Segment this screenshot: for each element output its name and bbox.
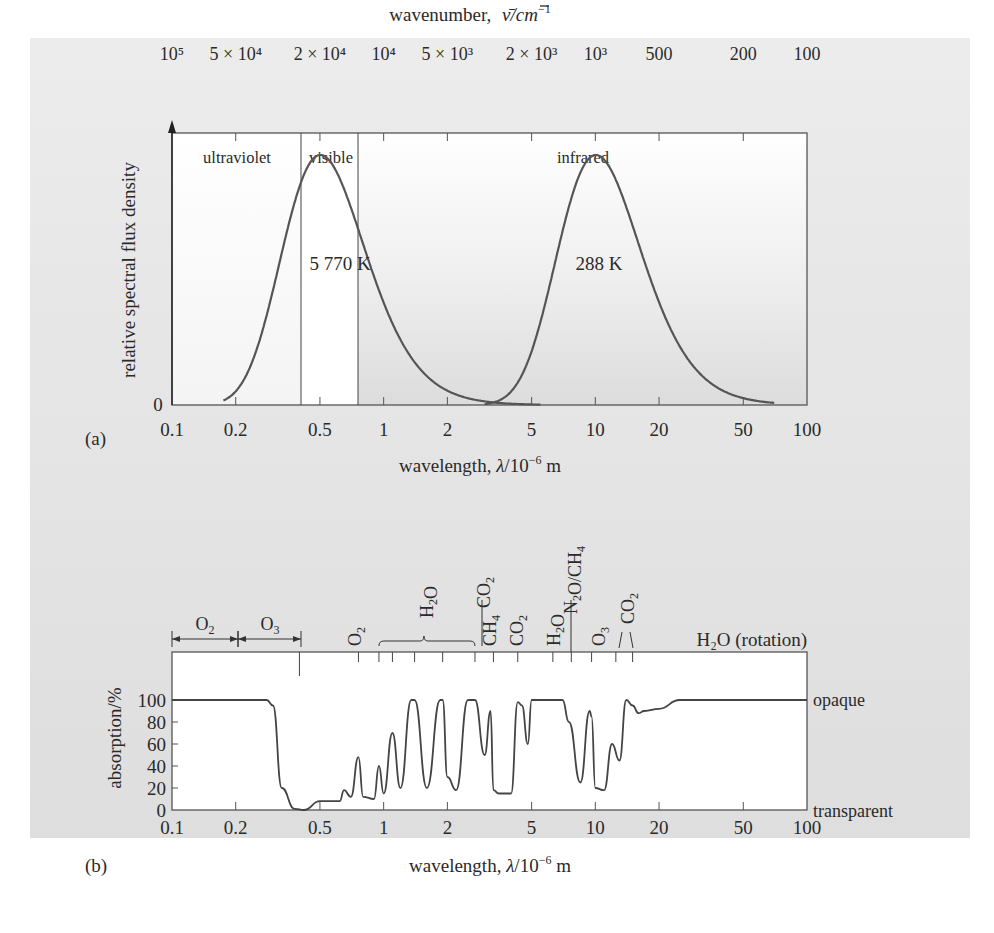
absorber-label-ch4: CH4 xyxy=(480,615,503,646)
top-tick-label: 2 × 10⁴ xyxy=(294,44,346,64)
y-axis-tick-labels-b: 020406080100 xyxy=(138,690,167,821)
y-tick-label: 40 xyxy=(147,756,166,777)
absorber-label-co2-b: CO2 xyxy=(507,615,530,646)
panel-a: wavenumber, ν̄/cm−1 10⁵5 × 10⁴2 × 10⁴10⁴… xyxy=(85,2,821,476)
panel-b: O2O3O2H2OCO2CH4CO2H2ON2O/CH4O3CO2H₂O (ro… xyxy=(85,546,893,877)
absorber-label-co2-c: CO2 xyxy=(618,593,641,624)
x-tick-label: 100 xyxy=(793,817,822,838)
absorber-label-h2o: H2O xyxy=(417,586,441,618)
top-axis-tick-labels: 10⁵5 × 10⁴2 × 10⁴10⁴5 × 10³2 × 10³10³500… xyxy=(160,44,821,64)
x-tick-label: 0.2 xyxy=(224,419,248,440)
y-tick-label: 80 xyxy=(147,712,166,733)
y-axis-arrow-icon xyxy=(168,120,176,133)
absorber-label-o3: O3 xyxy=(589,627,612,646)
y-tick-label: 20 xyxy=(147,778,166,799)
co2-bracket-left xyxy=(619,632,622,648)
arrow-right-icon xyxy=(230,636,238,642)
x-tick-label: 0.5 xyxy=(308,419,332,440)
x-tick-label: 50 xyxy=(734,419,753,440)
top-tick-label: 10⁴ xyxy=(372,44,396,64)
top-tick-label: 100 xyxy=(794,44,821,64)
panel-b-label: (b) xyxy=(85,855,107,877)
x-tick-label: 0.5 xyxy=(308,817,332,838)
x-tick-label: 0.2 xyxy=(224,817,248,838)
x-axis-label-b: wavelength, λ/10−6 m xyxy=(409,853,571,876)
y-axis-label-b: absorption/% xyxy=(104,687,125,788)
y-tick-label: 60 xyxy=(147,734,166,755)
x-tick-label: 0.1 xyxy=(160,419,184,440)
top-tick-label: 5 × 10³ xyxy=(422,44,474,64)
top-tick-label: 10⁵ xyxy=(160,44,184,64)
y-axis-label-a: relative spectral flux density xyxy=(118,162,139,378)
x-axis-tick-labels-a: 0.10.20.5125102050100 xyxy=(160,419,821,440)
x-tick-label: 100 xyxy=(793,419,822,440)
x-axis-label-a: wavelength, λ/10−6 m xyxy=(399,453,561,476)
spectrum-figure: wavenumber, ν̄/cm−1 10⁵5 × 10⁴2 × 10⁴10⁴… xyxy=(0,0,994,933)
absorber-label-o2: O2 xyxy=(345,627,368,646)
earth-temperature-label: 288 K xyxy=(576,253,623,274)
opaque-label: opaque xyxy=(813,690,865,710)
x-tick-label: 20 xyxy=(650,419,669,440)
x-tick-label: 5 xyxy=(527,817,537,838)
arrow-left-icon xyxy=(172,636,180,642)
absorber-label-o2-uv: O2 xyxy=(196,614,215,637)
region-label-ultraviolet: ultraviolet xyxy=(203,148,271,167)
h2o-rotation-label: H₂O (rotation) xyxy=(696,629,807,651)
y-tick-label: 100 xyxy=(138,690,167,711)
y-zero-label-a: 0 xyxy=(153,394,163,415)
plot-area-b xyxy=(172,652,807,810)
x-tick-label: 1 xyxy=(379,419,389,440)
sun-temperature-label: 5 770 K xyxy=(309,253,371,274)
transparent-label: transparent xyxy=(813,801,893,821)
panel-a-label: (a) xyxy=(85,428,106,450)
top-tick-label: 2 × 10³ xyxy=(506,44,558,64)
x-tick-label: 2 xyxy=(443,419,453,440)
top-tick-label: 200 xyxy=(730,44,757,64)
top-tick-label: 5 × 10⁴ xyxy=(209,44,261,64)
absorber-label-n2o-ch4: N2O/CH4 xyxy=(561,546,588,614)
arrow-left-icon xyxy=(238,636,246,642)
arrow-right-icon xyxy=(293,636,301,642)
absorber-label-o3-uv: O3 xyxy=(261,614,280,637)
absorber-label-h2o-b: H2O xyxy=(544,614,568,646)
x-tick-label: 0.1 xyxy=(160,817,184,838)
top-tick-label: 500 xyxy=(646,44,673,64)
x-axis-tick-labels-b: 0.10.20.5125102050100 xyxy=(160,817,821,838)
absorber-label-co2-a: CO2 xyxy=(474,577,497,608)
x-tick-label: 1 xyxy=(379,817,389,838)
top-tick-label: 10³ xyxy=(584,44,608,64)
co2-bracket-right xyxy=(630,632,633,648)
x-tick-label: 10 xyxy=(586,817,605,838)
x-tick-label: 20 xyxy=(650,817,669,838)
top-axis-title: wavenumber, ν̄/cm−1 xyxy=(389,2,551,25)
x-tick-label: 10 xyxy=(586,419,605,440)
x-tick-label: 50 xyxy=(734,817,753,838)
ultraviolet-region xyxy=(172,133,301,405)
x-tick-label: 2 xyxy=(443,817,453,838)
x-tick-label: 5 xyxy=(527,419,537,440)
h2o-brace xyxy=(379,636,475,646)
